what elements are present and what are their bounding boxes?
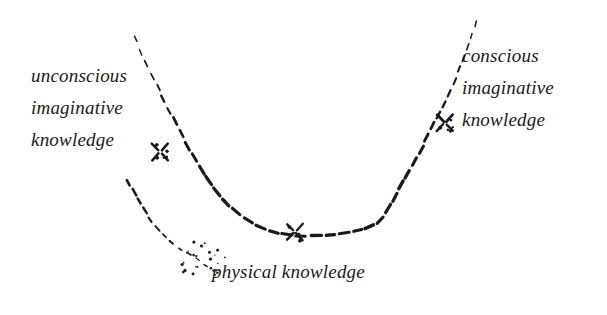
curve-speckle <box>195 255 197 257</box>
curve-dash <box>354 229 362 231</box>
curve-dash <box>139 49 141 54</box>
curve-dash <box>134 36 136 41</box>
x-marker-speck <box>166 156 168 158</box>
curve-dash <box>206 176 212 184</box>
curve-dash <box>471 34 473 39</box>
curve-dash <box>393 193 397 201</box>
curve-dash <box>386 204 391 212</box>
label-bottom-line1: physical knowledge <box>212 262 365 281</box>
curve-speckle <box>192 241 195 244</box>
curve-dash <box>377 217 383 223</box>
curve-dash <box>196 258 199 260</box>
curve-dash <box>179 248 182 250</box>
curve-dash <box>232 208 240 214</box>
curve-dash <box>223 199 229 206</box>
label-physical-knowledge: physical knowledge <box>212 262 365 281</box>
x-marker-speck <box>452 126 454 128</box>
x-marker-speck <box>439 126 442 129</box>
curve-dash <box>173 117 177 124</box>
curve-dash <box>155 226 159 231</box>
curve-speckle <box>224 257 226 259</box>
marker-left-x <box>152 144 168 161</box>
curve-dash <box>151 74 154 80</box>
curve-dash <box>270 231 278 233</box>
curve-dash <box>185 142 189 150</box>
curve-dash <box>420 146 424 153</box>
curve-dash <box>167 108 170 114</box>
curve-dash <box>454 78 457 84</box>
figure-canvas: unconscious imaginative knowledge consci… <box>0 0 607 315</box>
curve-dash <box>133 189 137 195</box>
x-marker-speck <box>298 239 301 242</box>
x-marker-group <box>152 115 454 243</box>
curve-dash <box>431 122 434 129</box>
curve-speckle <box>197 266 199 268</box>
curve-dash <box>145 61 148 67</box>
curve-speckle <box>183 269 186 272</box>
curve-speckle <box>195 266 197 268</box>
label-left-line3: knowledge <box>31 130 127 149</box>
x-marker-stroke <box>162 144 168 151</box>
x-marker-speck <box>290 234 292 236</box>
label-right-line3: knowledge <box>462 110 554 129</box>
curve-dash <box>214 188 220 196</box>
marker-center-x <box>287 224 303 243</box>
curve-speckle <box>208 251 211 254</box>
curve-dash <box>458 66 460 71</box>
curve-dash <box>163 234 166 237</box>
curve-dash <box>424 134 428 141</box>
curve-dash <box>399 181 403 189</box>
label-left-line2: imaginative <box>31 98 127 117</box>
curve-dash <box>204 265 207 267</box>
curve-dash <box>127 180 130 185</box>
x-marker-speck <box>450 119 452 121</box>
curve-dash <box>143 208 147 214</box>
curve-dash <box>161 96 164 102</box>
curve-dash <box>443 102 446 108</box>
curve-speckle <box>214 255 215 256</box>
curve-speckle <box>186 253 187 254</box>
curve-dash <box>192 154 196 161</box>
curve-dash <box>244 218 252 223</box>
curve-dash <box>180 130 184 137</box>
curve-dash <box>475 21 476 26</box>
x-marker-speck <box>288 226 291 229</box>
label-right-line2: imaginative <box>462 78 554 97</box>
marker-right-x <box>437 115 454 133</box>
curve-dash <box>339 232 349 234</box>
curve-speckle <box>192 254 195 257</box>
label-conscious-imaginative-knowledge: conscious imaginative knowledge <box>462 46 554 129</box>
x-marker-speck <box>156 156 159 159</box>
x-marker-speck <box>155 144 158 147</box>
curve-dash <box>326 235 334 236</box>
label-right-line1: conscious <box>462 46 554 65</box>
curve-speckle <box>202 246 203 247</box>
curve-dash <box>365 225 373 229</box>
x-marker-speck <box>163 157 165 159</box>
curve-dash <box>405 171 409 178</box>
curve-speckle <box>204 242 206 244</box>
x-marker-speck <box>166 150 168 152</box>
curve-speckle <box>216 249 219 252</box>
label-left-line1: unconscious <box>31 66 127 85</box>
curve-dash <box>199 166 204 174</box>
curve-dash <box>138 199 141 204</box>
curve-speckle <box>188 251 189 252</box>
x-marker-speck <box>449 130 451 132</box>
curve-dash <box>170 241 173 244</box>
x-marker-speck <box>447 129 449 131</box>
curve-speckle <box>183 262 185 264</box>
curve-dash <box>448 90 451 96</box>
x-marker-speck <box>298 233 300 235</box>
curve-speckle <box>192 273 195 276</box>
x-marker-stroke <box>297 224 303 231</box>
curve-dash <box>412 158 416 166</box>
curve-dash <box>149 218 152 222</box>
curve-dash <box>256 225 265 229</box>
curve-dash <box>157 85 160 90</box>
label-unconscious-imaginative-knowledge: unconscious imaginative knowledge <box>31 66 127 149</box>
